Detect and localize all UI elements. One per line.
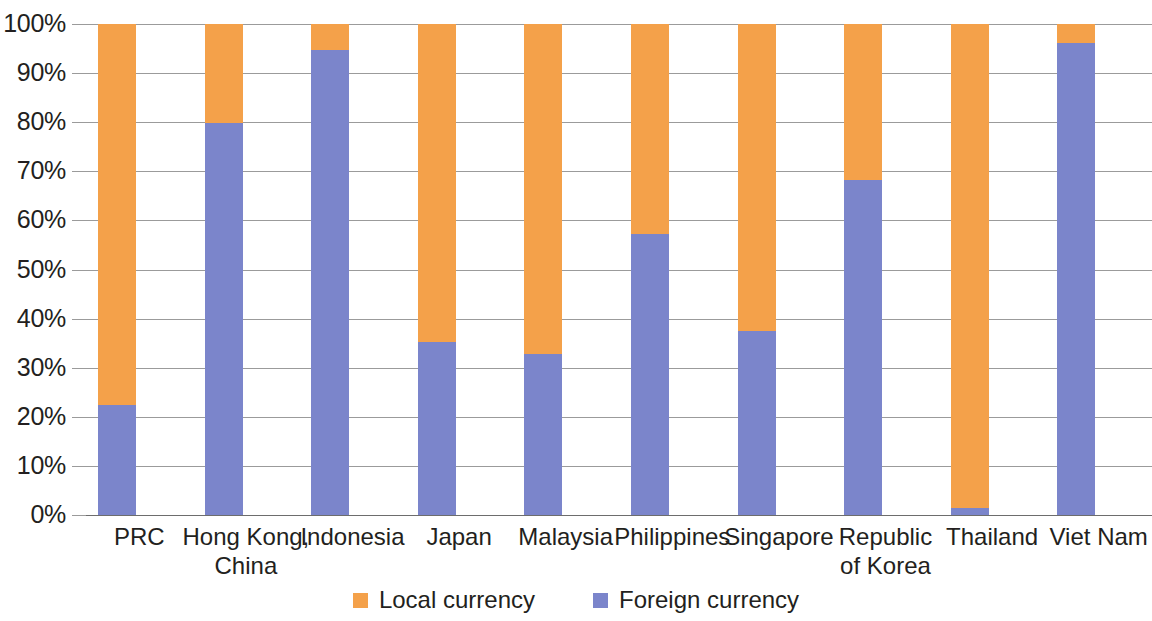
y-axis-tick-mark: [72, 122, 86, 123]
bar-segment-foreign-currency[interactable]: [98, 405, 136, 515]
bar-segment-foreign-currency[interactable]: [524, 354, 562, 515]
gridline: [86, 270, 1152, 271]
bar-group[interactable]: [738, 24, 776, 515]
y-axis-tick-label: 50%: [0, 257, 66, 282]
gridline: [86, 319, 1152, 320]
y-axis-tick-label: 70%: [0, 158, 66, 183]
y-axis-tick-label: 30%: [0, 355, 66, 380]
y-axis-tick-mark: [72, 171, 86, 172]
bar-segment-foreign-currency[interactable]: [738, 331, 776, 515]
bar-segment-foreign-currency[interactable]: [418, 342, 456, 515]
y-axis-tick-label: 20%: [0, 404, 66, 429]
bar-group[interactable]: [418, 24, 456, 515]
bar-segment-foreign-currency[interactable]: [1057, 43, 1095, 515]
bar-segment-local-currency[interactable]: [951, 24, 989, 508]
y-axis-tick-mark: [72, 319, 86, 320]
y-axis-tick-mark: [72, 417, 86, 418]
gridline: [86, 220, 1152, 221]
bar-segment-local-currency[interactable]: [738, 24, 776, 331]
legend-item[interactable]: Foreign currency: [593, 588, 799, 612]
square-swatch-blue: [593, 593, 608, 608]
legend-label: Local currency: [379, 588, 535, 612]
y-axis-tick-mark: [72, 368, 86, 369]
y-axis-tick-mark: [72, 73, 86, 74]
gridline: [86, 122, 1152, 123]
stacked-bar-chart: 100%90%80%70%60%50%40%30%20%10%0% PRCHon…: [0, 0, 1152, 621]
bar-segment-local-currency[interactable]: [1057, 24, 1095, 43]
gridline: [86, 24, 1152, 25]
bar-segment-foreign-currency[interactable]: [844, 180, 882, 515]
chart-legend: Local currencyForeign currency: [0, 588, 1152, 612]
square-swatch-orange: [353, 593, 368, 608]
y-axis-tick-mark: [72, 466, 86, 467]
bar-segment-local-currency[interactable]: [98, 24, 136, 405]
gridline: [86, 417, 1152, 418]
gridline: [86, 368, 1152, 369]
legend-label: Foreign currency: [619, 588, 799, 612]
y-axis-tick-mark: [72, 24, 86, 25]
y-axis-tick-mark: [72, 515, 86, 516]
bar-segment-local-currency[interactable]: [311, 24, 349, 50]
y-axis-tick-label: 40%: [0, 306, 66, 331]
plot-area: [86, 24, 1152, 515]
bar-segment-local-currency[interactable]: [844, 24, 882, 180]
bar-segment-local-currency[interactable]: [205, 24, 243, 123]
y-axis-tick-label: 10%: [0, 453, 66, 478]
y-axis-tick-label: 60%: [0, 207, 66, 232]
bar-group[interactable]: [205, 24, 243, 515]
bar-group[interactable]: [844, 24, 882, 515]
bar-group[interactable]: [1057, 24, 1095, 515]
y-axis-tick-label: 100%: [0, 11, 66, 36]
x-axis: PRCHong Kong, ChinaIndonesiaJapanMalaysi…: [86, 522, 1152, 592]
gridline: [86, 466, 1152, 467]
gridline: [86, 73, 1152, 74]
bar-segment-local-currency[interactable]: [524, 24, 562, 354]
bar-segment-foreign-currency[interactable]: [631, 234, 669, 515]
gridline: [86, 515, 1152, 516]
y-axis-tick-label: 80%: [0, 109, 66, 134]
bar-group[interactable]: [951, 24, 989, 515]
y-axis-tick-label: 0%: [0, 502, 66, 527]
bar-segment-local-currency[interactable]: [631, 24, 669, 234]
y-axis-tick-label: 90%: [0, 60, 66, 85]
y-axis-tick-mark: [72, 220, 86, 221]
bar-segment-foreign-currency[interactable]: [311, 50, 349, 515]
bar-group[interactable]: [631, 24, 669, 515]
legend-item[interactable]: Local currency: [353, 588, 535, 612]
bar-segment-foreign-currency[interactable]: [205, 123, 243, 515]
bar-segment-foreign-currency[interactable]: [951, 508, 989, 515]
bar-group[interactable]: [311, 24, 349, 515]
bar-group[interactable]: [524, 24, 562, 515]
x-axis-category-label: Viet Nam: [1031, 522, 1152, 551]
bar-group[interactable]: [98, 24, 136, 515]
y-axis-tick-mark: [72, 270, 86, 271]
gridline: [86, 171, 1152, 172]
bar-segment-local-currency[interactable]: [418, 24, 456, 342]
